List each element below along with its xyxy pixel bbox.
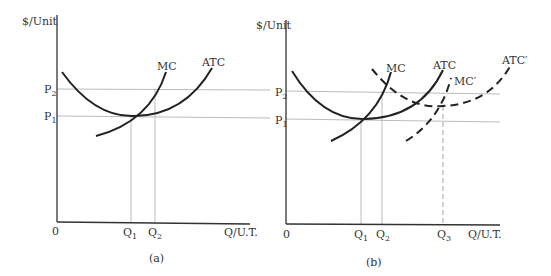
- mc-label: MC: [157, 60, 177, 73]
- q3-tick-label: Q3: [437, 228, 451, 243]
- mc-prime-curve: [406, 78, 451, 141]
- x-axis: [286, 224, 500, 225]
- origin-label: 0: [52, 225, 59, 238]
- mc-prime-label: MC′: [454, 75, 477, 88]
- p1-tick-label: P1: [44, 110, 57, 125]
- p2-guide-line: [286, 91, 500, 94]
- p2-tick-label: P2: [44, 83, 57, 98]
- y-axis-label: $/Unit: [22, 15, 58, 28]
- q1-tick-label: Q1: [123, 226, 137, 241]
- x-axis-label: Q/U.T.: [224, 226, 258, 239]
- atc-prime-label: ATC′: [501, 54, 528, 67]
- q2-tick-label: Q2: [148, 226, 162, 241]
- p2-guide-line: [57, 89, 270, 90]
- panel-b: $/Unit MC ATC MC′ ATC′ P2 P1 0 Q1 Q2 Q3 …: [256, 19, 528, 269]
- p1-guide-line: [286, 119, 500, 122]
- cost-curves-figure: $/Unit MC ATC P2 P1 0 Q1 Q2 Q/U.T. (a) $…: [0, 0, 551, 276]
- atc-curve: [292, 70, 443, 119]
- q1-tick-label: Q1: [354, 228, 368, 243]
- mc-label: MC: [386, 62, 406, 75]
- p1-guide-line: [57, 116, 270, 118]
- atc-curve: [62, 68, 212, 116]
- x-axis: [57, 222, 250, 224]
- panel-caption: (b): [366, 256, 382, 269]
- atc-label: ATC: [432, 59, 456, 72]
- x-axis-label: Q/U.T.: [468, 228, 502, 241]
- origin-label: 0: [283, 228, 290, 241]
- panel-caption: (a): [149, 252, 164, 265]
- atc-label: ATC: [201, 56, 225, 69]
- q2-tick-label: Q2: [376, 228, 390, 243]
- panel-a: $/Unit MC ATC P2 P1 0 Q1 Q2 Q/U.T. (a): [22, 15, 270, 265]
- y-axis-label: $/Unit: [256, 19, 292, 32]
